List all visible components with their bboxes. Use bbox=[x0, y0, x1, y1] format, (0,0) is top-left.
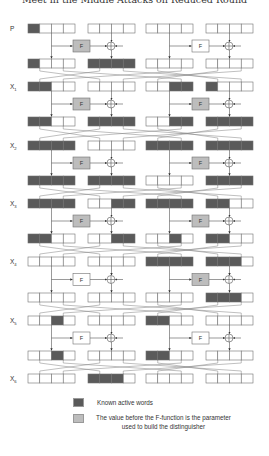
word-cell bbox=[170, 351, 182, 360]
permutation-wire bbox=[63, 126, 181, 141]
word-cell bbox=[230, 82, 242, 91]
state-row-x5 bbox=[28, 316, 253, 325]
state-row-after-x1 bbox=[28, 117, 253, 126]
word-cell bbox=[158, 176, 170, 185]
active-word-cell bbox=[206, 293, 218, 302]
active-word-cell bbox=[100, 117, 112, 126]
word-cell bbox=[52, 59, 64, 68]
word-cell bbox=[40, 351, 52, 360]
xor-icon bbox=[225, 159, 233, 167]
feistel-attack-diagram: FFFFFFFFFFFF PX1X2X3X4X5X6 bbox=[0, 0, 269, 456]
xor-icon bbox=[107, 159, 115, 167]
active-word-cell bbox=[88, 117, 100, 126]
word-cell bbox=[230, 316, 242, 325]
active-word-cell bbox=[123, 117, 135, 126]
word-cell bbox=[241, 257, 253, 266]
permutation-wire bbox=[63, 68, 181, 82]
word-cell bbox=[181, 176, 193, 185]
active-word-cell bbox=[158, 257, 170, 266]
active-word-swatch bbox=[73, 398, 84, 407]
xor-icon bbox=[107, 276, 115, 284]
active-word-cell bbox=[40, 176, 52, 185]
active-word-cell bbox=[158, 199, 170, 208]
word-cell bbox=[88, 351, 100, 360]
word-cell bbox=[241, 234, 253, 243]
word-cell bbox=[158, 59, 170, 68]
word-cell bbox=[241, 316, 253, 325]
active-word-cell bbox=[206, 257, 218, 266]
word-cell bbox=[123, 82, 135, 91]
active-word-cell bbox=[40, 199, 52, 208]
word-cell bbox=[206, 374, 218, 383]
xor-icon bbox=[107, 100, 115, 108]
word-cell bbox=[100, 257, 112, 266]
active-word-cell bbox=[28, 141, 40, 150]
state-row-x4 bbox=[28, 257, 253, 266]
word-cell bbox=[88, 257, 100, 266]
word-cell bbox=[206, 59, 218, 68]
state-row-after-x2 bbox=[28, 176, 253, 185]
row-label: X6 bbox=[10, 375, 17, 384]
xor-icon bbox=[225, 217, 233, 225]
active-word-cell bbox=[100, 59, 112, 68]
active-word-cell bbox=[230, 176, 242, 185]
active-word-cell bbox=[146, 351, 158, 360]
permutation-wire bbox=[123, 185, 241, 199]
word-cell bbox=[158, 82, 170, 91]
permutation-wire bbox=[123, 243, 241, 257]
permutation-wire bbox=[63, 185, 181, 199]
active-word-cell bbox=[218, 176, 230, 185]
active-word-cell bbox=[52, 176, 64, 185]
word-cell bbox=[100, 234, 112, 243]
permutation-wire bbox=[158, 243, 218, 257]
active-word-cell bbox=[146, 141, 158, 150]
state-row-after-x4 bbox=[28, 293, 253, 302]
permutation-wire bbox=[123, 360, 241, 374]
word-cell bbox=[63, 316, 75, 325]
word-cell bbox=[181, 59, 193, 68]
active-word-cell bbox=[230, 293, 242, 302]
word-cell bbox=[52, 234, 64, 243]
word-cell bbox=[241, 199, 253, 208]
word-cell bbox=[100, 293, 112, 302]
active-word-cell bbox=[170, 199, 182, 208]
word-cell bbox=[146, 82, 158, 91]
word-cell bbox=[88, 234, 100, 243]
active-word-cell bbox=[218, 234, 230, 243]
active-word-cell bbox=[181, 82, 193, 91]
active-word-cell bbox=[181, 117, 193, 126]
word-cell bbox=[88, 82, 100, 91]
active-word-cell bbox=[206, 117, 218, 126]
active-word-cell bbox=[181, 141, 193, 150]
active-word-cell bbox=[146, 316, 158, 325]
word-cell bbox=[170, 59, 182, 68]
word-cell bbox=[28, 374, 40, 383]
word-cell bbox=[146, 234, 158, 243]
word-cell bbox=[123, 374, 135, 383]
active-word-cell bbox=[241, 141, 253, 150]
word-cell bbox=[123, 293, 135, 302]
word-cell bbox=[100, 141, 112, 150]
active-word-cell bbox=[206, 141, 218, 150]
permutation-wire bbox=[63, 302, 181, 316]
word-cell bbox=[88, 141, 100, 150]
state-row-after-p bbox=[28, 59, 253, 68]
word-cell bbox=[241, 82, 253, 91]
word-cell bbox=[170, 24, 182, 33]
word-cell bbox=[158, 374, 170, 383]
word-cell bbox=[218, 374, 230, 383]
active-word-cell bbox=[100, 374, 112, 383]
active-word-cell bbox=[112, 199, 124, 208]
active-word-cell bbox=[28, 24, 40, 33]
active-word-cell bbox=[40, 234, 52, 243]
word-cell bbox=[112, 351, 124, 360]
word-cell bbox=[146, 374, 158, 383]
word-cell bbox=[112, 293, 124, 302]
active-word-cell bbox=[112, 59, 124, 68]
active-word-cell bbox=[88, 374, 100, 383]
word-cell bbox=[100, 82, 112, 91]
word-cell bbox=[241, 293, 253, 302]
word-cell bbox=[230, 234, 242, 243]
word-cell bbox=[146, 24, 158, 33]
active-word-cell bbox=[100, 176, 112, 185]
